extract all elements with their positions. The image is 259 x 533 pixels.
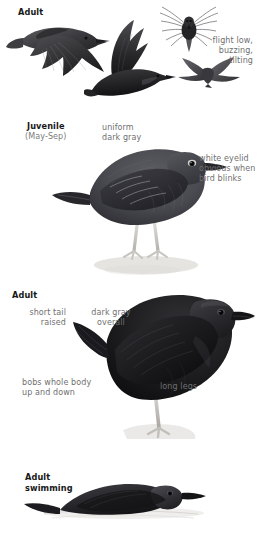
figure-dipper-in-flight-wings-up [84,18,176,108]
figure-dipper-in-flight-wings-down [6,16,118,88]
panel-juvenile-heading: Juvenile [27,122,65,132]
note-bobs-body-line2: up and down [22,388,75,397]
note-dark-gray-overall-line1: dark gray [83,308,139,317]
note-dark-gray-overall-line2: overall [83,318,139,327]
field-guide-plate: Adult flight low, buzzing, tilting [0,0,259,533]
note-white-eyelid-line2: obvious when [199,164,255,173]
note-white-eyelid-line1: white eyelid [199,154,249,163]
panel-swimming-heading-line2: swimming [25,484,73,494]
note-long-legs: long legs [160,382,197,391]
note-white-eyelid-line3: bird blinks [199,174,242,183]
note-flight-style-line3: tilting [169,56,253,65]
figure-juvenile-dipper-standing [38,125,228,280]
note-uniform-dark-gray-line2: dark gray [102,133,141,142]
panel-swimming-heading-line1: Adult [25,473,50,483]
note-flight-style-line1: flight low, [169,36,253,45]
panel-adult-standing-heading: Adult [12,291,37,301]
panel-juvenile-subheading: (May-Sep) [25,132,67,141]
note-short-tail-line1: short tail [0,308,66,317]
note-uniform-dark-gray-line1: uniform [102,123,134,132]
note-bobs-body-line1: bobs whole body [22,378,91,387]
panel-flight-heading: Adult [18,8,43,18]
note-flight-style-line2: buzzing, [169,46,253,55]
note-short-tail-line2: raised [0,318,66,327]
